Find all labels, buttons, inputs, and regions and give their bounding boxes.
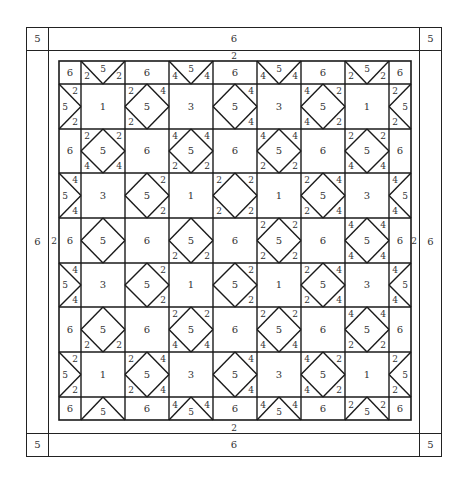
flying-geese-b: 2 (380, 401, 386, 410)
diamond-center: 5 (320, 102, 326, 112)
diamond-corner-br: 2 (248, 207, 254, 216)
flying-geese-center: 5 (62, 191, 68, 200)
flying-geese-center: 5 (276, 408, 282, 417)
diamond-corner-br: 4 (160, 386, 166, 395)
outer-border-right-label: 6 (427, 237, 433, 247)
flying-geese-b: 4 (204, 72, 210, 81)
cell-center: 1 (276, 191, 282, 201)
diamond-corner-br: 2 (380, 341, 386, 350)
diamond-corner-tr: 2 (160, 266, 166, 275)
diamond-corner-tr: 4 (292, 132, 298, 141)
diamond-corner-tl: 2 (216, 176, 222, 185)
diamond-corner-tl: 4 (304, 87, 310, 96)
diamond-center: 5 (276, 236, 282, 246)
diamond-center: 5 (144, 191, 150, 201)
flying-geese-center: 5 (62, 370, 68, 379)
diamond-center: 5 (188, 236, 194, 246)
flying-geese-b: 2 (72, 386, 78, 395)
cell-center: 1 (276, 280, 282, 290)
diamond-corner-tl: 2 (172, 310, 178, 319)
inner-border-left-label: 2 (51, 237, 57, 246)
diamond-center: 5 (276, 146, 282, 156)
diamond-corner-bl: 2 (128, 386, 134, 395)
corner-label: 5 (427, 34, 433, 44)
diamond-corner-bl: 4 (304, 386, 310, 395)
cell-center: 6 (144, 404, 150, 414)
outer-border-bottom: 6 (48, 433, 420, 457)
cell-center: 6 (67, 68, 73, 78)
diamond-corner-tl: 4 (304, 355, 310, 364)
flying-geese-b: 2 (392, 118, 398, 127)
diamond-corner-br: 4 (248, 118, 254, 127)
cell-center: 3 (100, 280, 106, 290)
diamond-center: 5 (364, 325, 370, 335)
diamond-corner-bl: 2 (84, 341, 90, 350)
diamond-corner-br: 2 (160, 207, 166, 216)
cell-center: 6 (397, 325, 403, 335)
diamond-center: 5 (100, 325, 106, 335)
diamond-center: 5 (100, 236, 106, 246)
diamond-corner-bl: 2 (260, 252, 266, 261)
diamond-corner-bl: 4 (348, 162, 354, 171)
corner-label: 5 (427, 440, 433, 450)
flying-geese-center: 5 (402, 191, 408, 200)
diamond-corner-tr: 2 (248, 176, 254, 185)
diamond-corner-bl: 2 (348, 341, 354, 350)
cell-center: 6 (397, 236, 403, 246)
diamond-corner-bl: 2 (260, 162, 266, 171)
flying-geese-b: 4 (392, 207, 398, 216)
diamond-center: 5 (188, 325, 194, 335)
cell-center: 3 (364, 191, 370, 201)
cell-center: 1 (188, 280, 194, 290)
flying-geese-center: 5 (276, 65, 282, 74)
diamond-corner-tr: 2 (292, 310, 298, 319)
cell-center: 6 (232, 236, 238, 246)
diamond-corner-br: 2 (336, 386, 342, 395)
diamond-corner-tl: 2 (304, 176, 310, 185)
flying-geese-b: 4 (204, 401, 210, 410)
diamond-corner-tr: 2 (248, 266, 254, 275)
flying-geese-b: 4 (72, 207, 78, 216)
diamond-corner-bl: 2 (128, 118, 134, 127)
diamond-corner-tr: 2 (292, 221, 298, 230)
corner-label: 5 (34, 34, 40, 44)
cell-center: 6 (67, 236, 73, 246)
diamond-center: 5 (144, 280, 150, 290)
flying-geese-a: 4 (72, 176, 78, 185)
flying-geese-a: 4 (260, 72, 266, 81)
cell-center: 3 (276, 102, 282, 112)
cell-center: 6 (320, 146, 326, 156)
cell-center: 3 (364, 280, 370, 290)
cell-center: 6 (144, 236, 150, 246)
diamond-corner-tr: 4 (380, 310, 386, 319)
diamond-center: 5 (144, 102, 150, 112)
diamond-corner-br: 2 (336, 118, 342, 127)
flying-geese-a: 4 (72, 266, 78, 275)
cell-center: 6 (320, 325, 326, 335)
diamond-corner-tr: 4 (204, 132, 210, 141)
diamond-corner-br: 4 (336, 207, 342, 216)
cell-center: 6 (144, 68, 150, 78)
diamond-corner-tr: 2 (380, 132, 386, 141)
outer-border-top: 6 (48, 27, 420, 51)
flying-geese-a: 2 (392, 87, 398, 96)
diamond-corner-tr: 4 (336, 176, 342, 185)
cell-center: 6 (232, 68, 238, 78)
inner-border-bottom-label: 2 (231, 424, 237, 433)
diamond-corner-br: 2 (116, 341, 122, 350)
diamond-corner-br: 4 (336, 296, 342, 305)
flying-geese-b: 4 (392, 296, 398, 305)
diamond-center: 5 (320, 280, 326, 290)
cell-center: 1 (100, 370, 106, 380)
flying-geese-center: 5 (100, 408, 106, 417)
inner-border-top-label: 2 (231, 52, 237, 61)
corner-square-bottom-right: 5 (419, 433, 442, 457)
flying-geese-center: 5 (402, 370, 408, 379)
flying-geese-a: 4 (172, 72, 178, 81)
diamond-corner-br: 4 (380, 252, 386, 261)
flying-geese-b: 4 (72, 296, 78, 305)
cell-center: 6 (397, 146, 403, 156)
flying-geese-a: 4 (172, 401, 178, 410)
diamond-corner-br: 2 (248, 296, 254, 305)
diamond-corner-bl: 4 (260, 341, 266, 350)
